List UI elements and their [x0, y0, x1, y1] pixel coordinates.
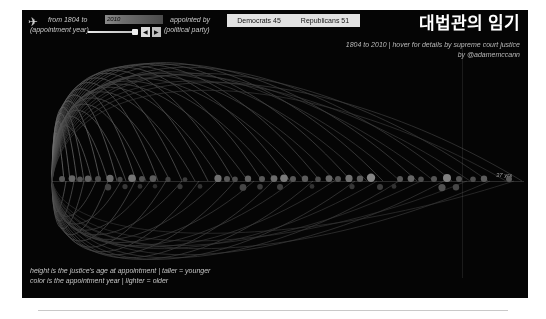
page-root: ✈ from 1804 to (appointment year) 2010 ◀…	[0, 0, 546, 319]
slider-track[interactable]	[88, 31, 136, 33]
legend-line-1: height is the justice's age at appointme…	[30, 266, 210, 276]
year-range-slider[interactable]: ◀ ▶	[88, 27, 166, 37]
year-value-display: 2010	[105, 15, 163, 24]
slider-handle[interactable]	[132, 29, 138, 35]
legend: height is the justice's age at appointme…	[30, 266, 210, 286]
subtitle-line-2: by @adamemccann	[346, 50, 520, 60]
filter-button-republicans[interactable]: Republicans 51	[290, 14, 360, 27]
year-range-caption-from: from 1804 to	[48, 15, 87, 24]
party-caption-label: (political party)	[164, 25, 210, 34]
party-caption-appointed-by: appointed by	[170, 15, 210, 24]
page-title: 대법관의 임기	[419, 13, 520, 35]
legend-line-2: color is the appointment year | lighter …	[30, 276, 210, 286]
axis-end-label: 37 yrs	[496, 171, 512, 179]
year-value-text: 2010	[107, 15, 120, 24]
subtitle: 1804 to 2010 | hover for details by supr…	[346, 40, 520, 60]
bottom-divider	[38, 310, 508, 311]
visualization-panel: ✈ from 1804 to (appointment year) 2010 ◀…	[22, 10, 528, 298]
slider-next-button[interactable]: ▶	[152, 27, 161, 37]
filter-button-democrats[interactable]: Democrats 45	[227, 14, 291, 27]
year-range-caption-label: (appointment year)	[30, 25, 89, 34]
slider-prev-button[interactable]: ◀	[141, 27, 150, 37]
subtitle-line-1: 1804 to 2010 | hover for details by supr…	[346, 40, 520, 50]
